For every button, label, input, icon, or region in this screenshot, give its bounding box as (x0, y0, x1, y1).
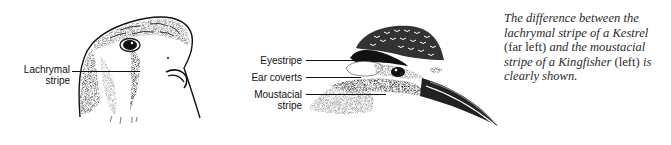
ear-coverts-leader-line (306, 77, 361, 78)
kestrel-head-drawing (70, 10, 210, 130)
figure-caption: The difference between the lachrymal str… (504, 11, 669, 84)
label-line-2: stripe (20, 75, 70, 86)
label-lachrymal-stripe: Lachrymal stripe (20, 64, 70, 86)
caption-text-4: (left) (615, 55, 640, 69)
lachrymal-stripe-leader-line (72, 71, 140, 72)
label-line-1: Moustacial (240, 89, 302, 100)
label-line-2: stripe (240, 100, 302, 111)
label-eyestripe: Eyestripe (240, 55, 302, 66)
kestrel-head-illustration (70, 10, 210, 130)
kingfisher-head-illustration (310, 20, 510, 130)
moustacial-stripe-leader-line (306, 94, 386, 95)
caption-text-2: (far left) (504, 40, 546, 54)
label-moustacial-stripe: Moustacial stripe (240, 89, 302, 111)
eyestripe-leader-line (306, 60, 354, 61)
label-line-1: Lachrymal (20, 64, 70, 75)
label-ear-coverts: Ear coverts (240, 72, 302, 83)
caption-text-1: The difference between the lachrymal str… (504, 11, 648, 40)
kingfisher-head-drawing (310, 20, 510, 130)
